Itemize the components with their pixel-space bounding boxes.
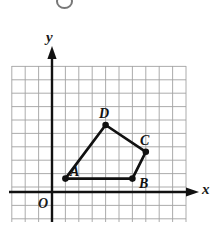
vertex-label-c: C — [140, 134, 149, 148]
vertex-dot-d — [102, 122, 109, 129]
vertex-dot-b — [129, 175, 136, 182]
origin-label: O — [38, 197, 48, 211]
x-axis-label: x — [202, 182, 210, 197]
vertex-label-a: A — [70, 165, 79, 179]
figure-canvas: y x O A B C D — [0, 0, 221, 231]
vertex-label-b: B — [139, 177, 148, 191]
vertex-label-d: D — [99, 107, 109, 121]
coordinate-grid-diagram — [0, 0, 221, 231]
y-axis-label: y — [46, 30, 53, 45]
x-axis-arrowhead — [186, 187, 199, 196]
vertex-dot-c — [143, 149, 150, 156]
y-axis-arrowhead — [47, 46, 56, 59]
vertex-dot-a — [62, 175, 69, 182]
